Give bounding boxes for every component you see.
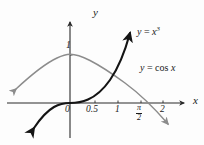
y-axis-label: y [93,7,98,18]
cubic-label-exponent: 3 [157,25,160,32]
cos-label-arg: x [171,62,175,73]
y-tick-label-1: 1 [66,41,71,51]
x-tick-label-2: 2 [160,105,165,115]
x-tick-label-0: 0 [65,105,70,115]
x-tick-label-1: 1 [115,105,120,115]
x-tick-label-0-5: 0.5 [86,105,98,115]
pi-numerator: π [136,104,142,112]
cos-label-equals: = [144,62,155,73]
graph-figure: y x 1 0 0.5 1 2 π 2 y = x3 y = cos x [0,0,204,145]
cubic-label-equals: = [141,26,152,37]
x-tick-label-pi-over-2: π 2 [136,104,142,123]
two-denominator: 2 [136,114,142,122]
curve-label-cosine: y = cos x [140,63,175,73]
x-axis-label: x [193,95,198,106]
curve-label-cubic: y = x3 [137,26,160,37]
cos-label-fn: cos [155,62,168,73]
